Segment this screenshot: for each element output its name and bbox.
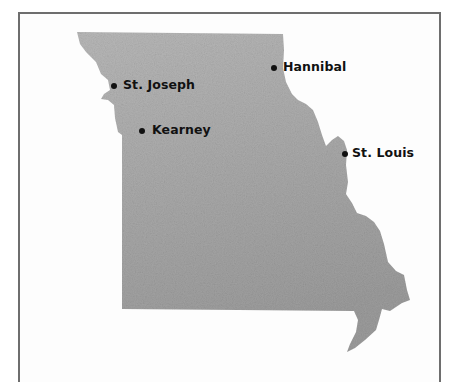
city-label-hannibal: Hannibal — [283, 61, 346, 74]
city-dot-icon — [111, 83, 117, 89]
city-dot-icon — [139, 128, 145, 134]
city-label-st-louis: St. Louis — [352, 147, 414, 160]
city-label-st-joseph: St. Joseph — [123, 79, 195, 92]
city-label-kearney: Kearney — [152, 124, 211, 137]
city-dot-icon — [342, 151, 348, 157]
city-dot-icon — [271, 65, 277, 71]
